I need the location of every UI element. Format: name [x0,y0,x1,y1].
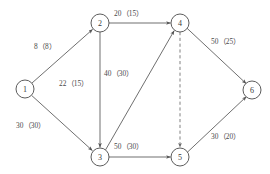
edge-5-6 [188,97,247,152]
node-5[interactable]: 5 [171,148,189,166]
edge-label-3-5: 50（30） [114,143,143,150]
node-4[interactable]: 4 [171,14,189,32]
edge-1-2 [32,29,93,83]
node-3[interactable]: 3 [91,148,109,166]
node-5-label: 5 [178,153,182,162]
edge-label-2-4: 20（15） [114,10,143,17]
edge-3-4 [106,31,175,150]
node-1[interactable]: 1 [16,80,34,98]
edge-label-4-6: 50（25） [211,38,240,45]
node-6-label: 6 [250,86,254,95]
node-2-label: 2 [98,19,102,28]
edge-label-1-3: 30（30） [16,122,45,129]
node-1-label: 1 [23,85,27,94]
edge-label-3-4: 22（15） [59,80,88,87]
edge-label-2-3: 40（30） [104,70,133,77]
node-3-label: 3 [98,153,102,162]
node-6[interactable]: 6 [243,81,261,99]
edge-label-5-6: 30（20） [211,133,240,140]
edge-label-1-2: 8（8） [34,43,56,50]
network-diagram: 1 2 3 4 5 6 8（8） 30（30 [0,0,270,174]
node-4-label: 4 [178,19,182,28]
node-2[interactable]: 2 [91,14,109,32]
